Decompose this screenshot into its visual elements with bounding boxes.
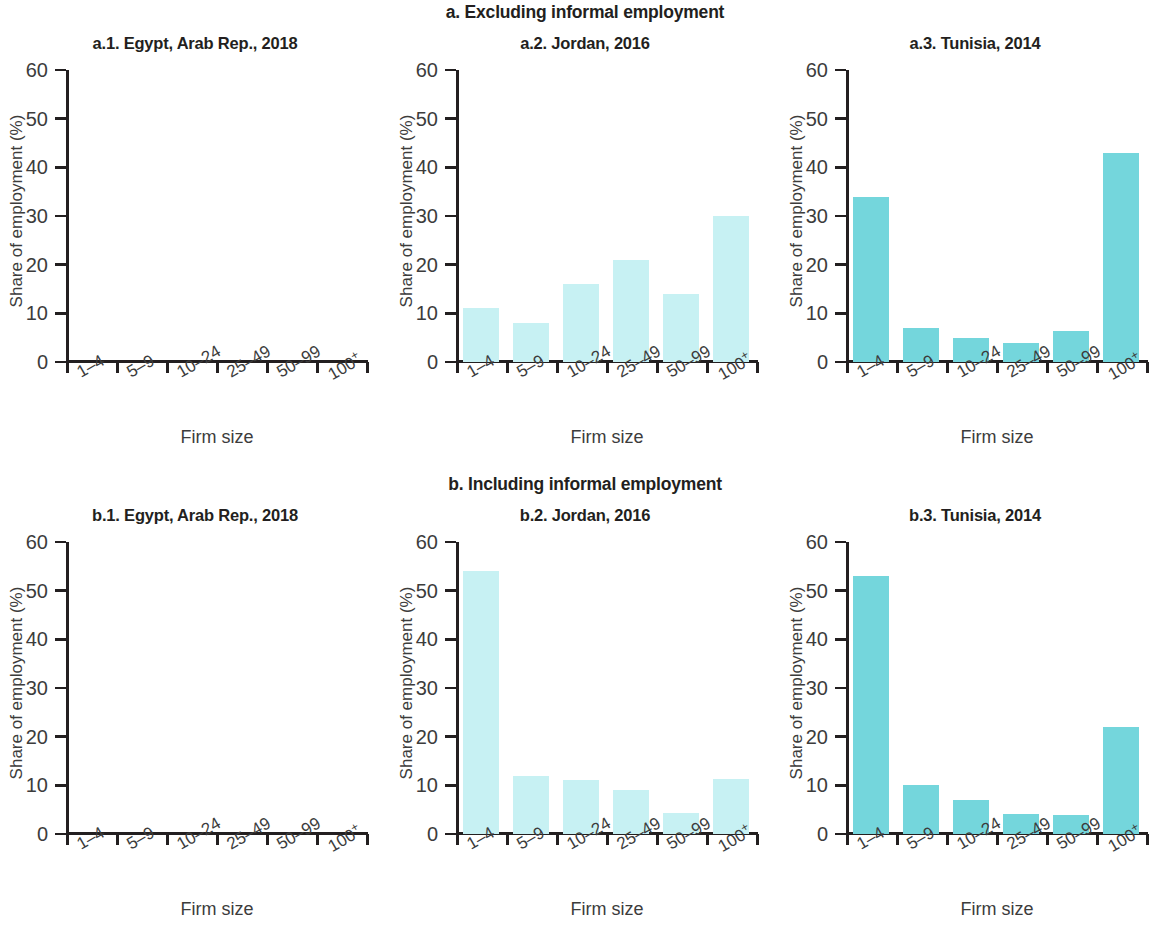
y-axis-tick: 20: [445, 263, 456, 266]
panel-b3: b.3. Tunisia, 2014Share of employment (%…: [780, 496, 1170, 926]
x-axis-tick-labels: 1–45–910–2425–4950–99100+: [456, 366, 766, 424]
x-axis-tick-labels: 1–45–910–2425–4950–99100+: [846, 838, 1156, 896]
y-axis-tick: 0: [835, 361, 846, 364]
y-axis-tick-label: 20: [806, 727, 828, 747]
y-axis-tick: 0: [55, 361, 66, 364]
y-axis-tick: 30: [445, 687, 456, 690]
y-axis-tick-label: 30: [416, 206, 438, 226]
y-axis-tick-label: 10: [416, 775, 438, 795]
x-axis-label: Firm size: [456, 428, 758, 446]
y-axis-tick-label: 60: [26, 60, 48, 80]
y-axis-tick: 60: [445, 69, 456, 72]
plot-area: Share of employment (%)60504030201001–45…: [390, 56, 780, 456]
y-axis-tick: 60: [445, 541, 456, 544]
y-axis-tick: 40: [445, 166, 456, 169]
plot-area: Share of employment (%)60504030201001–45…: [0, 528, 390, 928]
y-axis-tick-label: 10: [416, 303, 438, 323]
axes: 6050403020100: [66, 542, 366, 832]
y-axis-tick: 60: [835, 69, 846, 72]
y-axis-tick-label: 30: [26, 206, 48, 226]
x-axis-label: Firm size: [846, 900, 1148, 918]
y-axis-tick: 10: [835, 784, 846, 787]
y-axis-tick-label: 40: [26, 157, 48, 177]
y-axis-tick-label: 0: [817, 824, 828, 844]
y-axis-tick: 40: [55, 638, 66, 641]
axes: 6050403020100: [66, 70, 366, 360]
section-a-title: a. Excluding informal employment: [0, 0, 1170, 24]
axes: 6050403020100: [456, 70, 756, 360]
y-axis-tick: 20: [55, 735, 66, 738]
y-axis-tick-label: 50: [806, 581, 828, 601]
section-b-panels: b.1. Egypt, Arab Rep., 2018Share of empl…: [0, 496, 1170, 926]
x-axis-label: Firm size: [456, 900, 758, 918]
y-axis-tick-label: 0: [427, 352, 438, 372]
y-axis-tick-label: 20: [806, 255, 828, 275]
bar-group: [846, 70, 1146, 362]
y-axis-tick-label: 10: [806, 303, 828, 323]
y-axis-tick-label: 50: [26, 581, 48, 601]
y-axis-tick: 30: [835, 687, 846, 690]
y-axis-tick-label: 40: [416, 629, 438, 649]
bar-group: [456, 70, 756, 362]
y-axis-tick: 0: [445, 361, 456, 364]
bar-group: [66, 542, 366, 834]
y-axis-tick: 60: [55, 541, 66, 544]
y-axis-tick: 50: [835, 117, 846, 120]
x-axis-label: Firm size: [66, 428, 368, 446]
bar: [513, 776, 549, 834]
section-b-title: b. Including informal employment: [0, 472, 1170, 496]
plot-area: Share of employment (%)60504030201001–45…: [780, 56, 1170, 456]
section-excluding-informal: a. Excluding informal employment a.1. Eg…: [0, 0, 1170, 470]
panel-b1: b.1. Egypt, Arab Rep., 2018Share of empl…: [0, 496, 390, 926]
panel-title: a.2. Jordan, 2016: [390, 30, 780, 56]
y-axis-tick: 20: [445, 735, 456, 738]
y-axis-tick-label: 20: [26, 727, 48, 747]
bar: [1103, 153, 1139, 362]
y-axis-tick: 30: [445, 215, 456, 218]
panel-a3: a.3. Tunisia, 2014Share of employment (%…: [780, 24, 1170, 454]
y-axis-tick-label: 30: [26, 678, 48, 698]
y-axis-tick-label: 20: [416, 727, 438, 747]
panel-title: a.1. Egypt, Arab Rep., 2018: [0, 30, 390, 56]
y-axis-tick: 20: [835, 263, 846, 266]
y-axis-tick: 10: [445, 312, 456, 315]
panel-title: b.3. Tunisia, 2014: [780, 502, 1170, 528]
panel-title: b.2. Jordan, 2016: [390, 502, 780, 528]
y-axis-tick-label: 50: [416, 581, 438, 601]
y-axis-tick-label: 0: [37, 824, 48, 844]
y-axis-tick: 50: [445, 117, 456, 120]
y-axis-tick: 50: [445, 589, 456, 592]
y-axis-tick: 50: [55, 117, 66, 120]
y-axis-tick: 30: [835, 215, 846, 218]
y-axis-tick: 40: [835, 638, 846, 641]
y-axis-tick-label: 60: [26, 532, 48, 552]
plot-area: Share of employment (%)60504030201001–45…: [0, 56, 390, 456]
y-axis-tick: 20: [835, 735, 846, 738]
y-axis-tick: 10: [55, 784, 66, 787]
axes: 6050403020100: [846, 542, 1146, 832]
y-axis-tick-label: 20: [26, 255, 48, 275]
y-axis-tick-label: 30: [806, 678, 828, 698]
panel-a1: a.1. Egypt, Arab Rep., 2018Share of empl…: [0, 24, 390, 454]
y-axis-tick-label: 50: [806, 109, 828, 129]
x-axis-label: Firm size: [846, 428, 1148, 446]
x-axis-tick-labels: 1–45–910–2425–4950–99100+: [846, 366, 1156, 424]
y-axis-tick-label: 30: [806, 206, 828, 226]
bar: [853, 197, 889, 362]
y-axis-tick: 60: [55, 69, 66, 72]
bar-group: [66, 70, 366, 362]
plot-area: Share of employment (%)60504030201001–45…: [780, 528, 1170, 928]
bar: [853, 576, 889, 834]
y-axis-tick-label: 0: [427, 824, 438, 844]
panel-a2: a.2. Jordan, 2016Share of employment (%)…: [390, 24, 780, 454]
y-axis-tick: 40: [835, 166, 846, 169]
y-axis-tick: 40: [445, 638, 456, 641]
y-axis-tick-label: 20: [416, 255, 438, 275]
section-including-informal: b. Including informal employment b.1. Eg…: [0, 472, 1170, 935]
y-axis-tick: 60: [835, 541, 846, 544]
bar: [1103, 727, 1139, 834]
y-axis-tick-label: 60: [416, 60, 438, 80]
y-axis-tick: 50: [835, 589, 846, 592]
bar-group: [846, 542, 1146, 834]
axes: 6050403020100: [456, 542, 756, 832]
